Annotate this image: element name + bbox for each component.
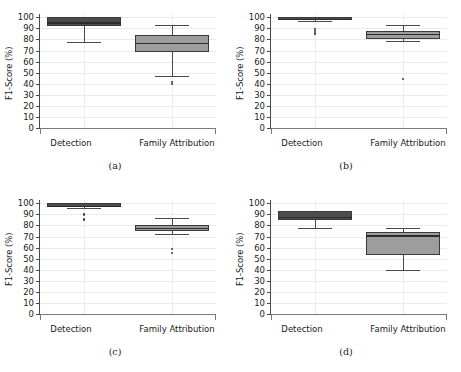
median-line bbox=[47, 206, 121, 207]
x-axis-labels-d: Detection Family Attribution bbox=[249, 324, 461, 338]
y-tick-label: 20 bbox=[10, 288, 34, 297]
y-gridline bbox=[271, 51, 447, 52]
outlier-point bbox=[314, 33, 316, 35]
outlier-point bbox=[83, 214, 85, 216]
median-line bbox=[366, 34, 440, 35]
x-axis-bracket-c bbox=[40, 314, 216, 322]
y-tick-label: 90 bbox=[10, 210, 34, 219]
x-label-family-attribution: Family Attribution bbox=[355, 138, 461, 148]
subplot-caption-b: (b) bbox=[231, 160, 461, 171]
y-gridline bbox=[271, 84, 447, 85]
y-gridline bbox=[271, 106, 447, 107]
cap-lower bbox=[67, 208, 101, 209]
y-gridline bbox=[40, 248, 216, 249]
plot-area-b: F1-Score (%) 0102030405060708090100 Dete… bbox=[231, 0, 461, 150]
y-tick-label: 10 bbox=[241, 299, 265, 308]
outlier-point bbox=[171, 248, 173, 250]
axes-background-c bbox=[40, 200, 216, 314]
axes-d: 0102030405060708090100 bbox=[271, 200, 447, 314]
x-label-family-attribution: Family Attribution bbox=[355, 324, 461, 334]
bracket-tick-right bbox=[215, 314, 216, 320]
y-tick-label: 0 bbox=[241, 310, 265, 319]
y-tick-label: 50 bbox=[241, 254, 265, 263]
subplot-caption-d: (d) bbox=[231, 346, 461, 357]
y-tick-label: 20 bbox=[241, 288, 265, 297]
y-tick-label: 70 bbox=[241, 46, 265, 55]
y-gridline bbox=[40, 214, 216, 215]
bracket-tick-left bbox=[40, 314, 41, 320]
y-gridline bbox=[271, 281, 447, 282]
cap-upper bbox=[386, 25, 420, 26]
y-tick-label: 10 bbox=[10, 113, 34, 122]
y-axis-line bbox=[39, 200, 40, 314]
x-label-detection: Detection bbox=[249, 324, 355, 334]
outlier-point bbox=[83, 219, 85, 221]
y-tick-label: 0 bbox=[10, 124, 34, 133]
x-label-detection: Detection bbox=[18, 324, 124, 334]
y-tick-label: 90 bbox=[241, 210, 265, 219]
x-label-detection: Detection bbox=[249, 138, 355, 148]
cap-lower bbox=[386, 41, 420, 42]
y-tick-label: 10 bbox=[241, 113, 265, 122]
whisker-upper bbox=[172, 218, 173, 226]
whisker-lower bbox=[315, 220, 316, 228]
y-gridline bbox=[40, 84, 216, 85]
y-tick-label: 10 bbox=[10, 299, 34, 308]
subplot-caption-c: (c) bbox=[0, 346, 230, 357]
whisker-upper bbox=[172, 25, 173, 35]
y-gridline bbox=[271, 303, 447, 304]
median-line bbox=[278, 19, 352, 20]
y-tick-label: 60 bbox=[241, 243, 265, 252]
x-label-family-attribution: Family Attribution bbox=[124, 324, 230, 334]
y-tick-label: 70 bbox=[241, 232, 265, 241]
y-tick-label: 100 bbox=[10, 199, 34, 208]
y-tick-label: 20 bbox=[241, 102, 265, 111]
x-axis-bracket-a bbox=[40, 128, 216, 136]
y-axis-line bbox=[39, 14, 40, 128]
x-label-family-attribution: Family Attribution bbox=[124, 138, 230, 148]
subplot-c: F1-Score (%) 0102030405060708090100 Dete… bbox=[0, 186, 230, 372]
y-tick-label: 40 bbox=[241, 79, 265, 88]
y-tick-label: 60 bbox=[10, 243, 34, 252]
y-tick-label: 60 bbox=[10, 57, 34, 66]
y-gridline bbox=[271, 39, 447, 40]
y-gridline bbox=[271, 62, 447, 63]
axes-b: 0102030405060708090100 bbox=[271, 14, 447, 128]
y-gridline bbox=[40, 95, 216, 96]
y-gridline bbox=[40, 106, 216, 107]
y-gridline bbox=[40, 259, 216, 260]
y-tick-label: 30 bbox=[241, 277, 265, 286]
cap-upper bbox=[155, 218, 189, 219]
cap-upper bbox=[155, 25, 189, 26]
cap-upper bbox=[386, 228, 420, 229]
cap-lower bbox=[386, 270, 420, 271]
plot-area-a: F1-Score (%) 0102030405060708090100 Dete… bbox=[0, 0, 230, 150]
axes-a: 0102030405060708090100 bbox=[40, 14, 216, 128]
y-tick-label: 80 bbox=[10, 221, 34, 230]
y-tick-label: 50 bbox=[241, 68, 265, 77]
subplot-b: F1-Score (%) 0102030405060708090100 Dete… bbox=[231, 0, 461, 186]
y-tick-label: 90 bbox=[241, 24, 265, 33]
y-gridline bbox=[271, 73, 447, 74]
bracket-bar bbox=[271, 314, 447, 315]
y-tick-label: 100 bbox=[241, 199, 265, 208]
y-gridline bbox=[40, 237, 216, 238]
bracket-tick-left bbox=[271, 128, 272, 134]
subplot-caption-a: (a) bbox=[0, 160, 230, 171]
y-tick-label: 40 bbox=[10, 79, 34, 88]
whisker-lower bbox=[172, 52, 173, 76]
y-gridline bbox=[271, 117, 447, 118]
median-line bbox=[47, 22, 121, 23]
y-tick-label: 30 bbox=[10, 91, 34, 100]
y-gridline bbox=[40, 281, 216, 282]
y-tick-label: 100 bbox=[241, 13, 265, 22]
y-gridline bbox=[40, 292, 216, 293]
y-tick-label: 70 bbox=[10, 232, 34, 241]
cap-lower bbox=[67, 42, 101, 43]
y-gridline bbox=[271, 28, 447, 29]
bracket-bar bbox=[40, 314, 216, 315]
cap-lower bbox=[155, 234, 189, 235]
cap-lower bbox=[155, 76, 189, 77]
y-gridline bbox=[40, 28, 216, 29]
y-tick-label: 50 bbox=[10, 68, 34, 77]
